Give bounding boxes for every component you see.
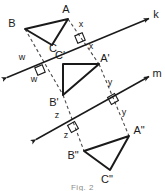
vertex-label-c-prime: C' bbox=[55, 49, 65, 61]
triangle-a-prime-b-prime-c-prime bbox=[63, 64, 99, 95]
distance-label-z-upper: z bbox=[55, 110, 60, 120]
vertex-label-a-prime: A' bbox=[100, 52, 109, 64]
vertex-label-b: B bbox=[8, 17, 15, 29]
mirror-line-m bbox=[36, 77, 149, 140]
vertex-label-a-dprime: A" bbox=[133, 124, 144, 136]
distance-label-x-upper: x bbox=[79, 19, 84, 29]
line-label-m: m bbox=[152, 67, 161, 79]
distance-label-x-lower: x bbox=[89, 41, 94, 51]
distance-label-w-lower: w bbox=[30, 74, 38, 84]
line-label-k: k bbox=[153, 8, 159, 20]
figure-caption: Fig. 2 bbox=[0, 183, 165, 191]
distance-label-y-upper: y bbox=[108, 77, 113, 87]
distance-label-y-lower: y bbox=[122, 107, 127, 117]
vertex-label-b-prime: B' bbox=[49, 96, 58, 108]
connector-aprime-to-adprime bbox=[99, 64, 129, 136]
reflection-diagram: A B C A' B' C' A" B" C" k m w w x x y y … bbox=[0, 0, 165, 191]
right-angle-a-k bbox=[75, 33, 85, 43]
vertex-label-a: A bbox=[62, 3, 70, 15]
triangle-a-dprime-b-dprime-c-dprime bbox=[84, 136, 129, 170]
vertex-label-b-dprime: B" bbox=[67, 149, 78, 161]
distance-label-w-upper: w bbox=[18, 52, 26, 62]
distance-label-z-lower: z bbox=[64, 130, 69, 140]
